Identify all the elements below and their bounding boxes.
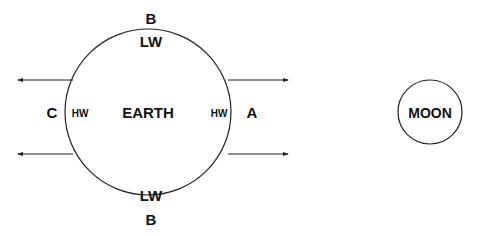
point-b-top: B xyxy=(146,10,157,27)
point-a: A xyxy=(247,104,258,121)
point-c: C xyxy=(47,104,58,121)
moon-label: MOON xyxy=(408,105,452,121)
low-water-bottom: LW xyxy=(140,187,163,204)
tidal-diagram: EARTH MOON B LW LW B C HW HW A xyxy=(0,0,490,235)
low-water-top: LW xyxy=(140,33,163,50)
earth-label: EARTH xyxy=(122,104,174,121)
high-water-right: HW xyxy=(211,108,228,119)
high-water-left: HW xyxy=(72,108,89,119)
point-b-bottom: B xyxy=(146,211,157,228)
